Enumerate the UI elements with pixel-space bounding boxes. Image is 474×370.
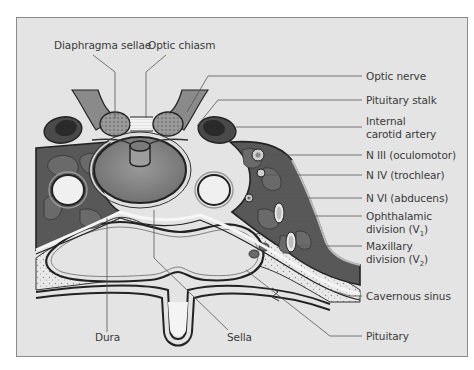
label-internal-carotid-artery: Internal carotid artery [366, 115, 436, 141]
label-ophthalmic-division: Ophthalamic division (V1) [366, 210, 432, 241]
label-line: carotid artery [366, 128, 436, 140]
label-optic-chiasm: Optic chiasm [148, 39, 215, 52]
optic-nerves [72, 90, 208, 136]
label-line: Ophthalamic [366, 210, 432, 222]
label-pituitary: Pituitary [366, 330, 409, 343]
label-line: ) [424, 253, 428, 265]
label-sella: Sella [227, 331, 252, 344]
label-cavernous-sinus: Cavernous sinus [366, 290, 451, 303]
label-n6-abducens: N VI (abducens) [366, 192, 448, 205]
pituitary-stalk [130, 141, 150, 167]
label-pituitary-stalk: Pituitary stalk [366, 94, 437, 107]
label-n4-trochlear: N IV (trochlear) [366, 169, 445, 182]
label-line: division (V [366, 253, 420, 265]
label-maxillary-division: Maxillary division (V2) [366, 240, 428, 271]
label-diaphragma-sellae: Diaphragma sellae [54, 39, 151, 52]
label-line: ) [424, 223, 428, 235]
label-line: division (V [366, 223, 420, 235]
label-n3-oculomotor: N III (oculomotor) [366, 149, 456, 162]
label-line: Internal [366, 115, 406, 127]
anatomy-illustration [0, 0, 474, 370]
label-line: Maxillary [366, 240, 413, 252]
label-dura: Dura [95, 331, 120, 344]
label-optic-nerve: Optic nerve [366, 70, 426, 83]
